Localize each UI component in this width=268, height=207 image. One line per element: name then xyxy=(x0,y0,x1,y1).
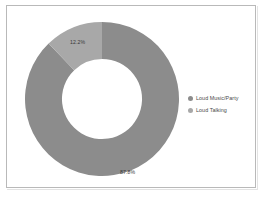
legend-item-loud-music-party[interactable]: Loud Music/Party xyxy=(188,93,266,103)
chart-page: 12.2% 87.8% Loud Music/Party Loud Talkin… xyxy=(0,0,268,207)
slice-label-loud-music-party: 87.8% xyxy=(120,169,135,175)
chart-frame: 12.2% 87.8% Loud Music/Party Loud Talkin… xyxy=(6,5,256,188)
slice-label-loud-talking: 12.2% xyxy=(70,39,85,45)
legend-marker-circle-icon xyxy=(188,108,193,113)
legend-label-loud-talking: Loud Talking xyxy=(196,107,227,113)
chart-legend: Loud Music/Party Loud Talking xyxy=(188,93,266,117)
legend-marker-circle-icon xyxy=(188,96,193,101)
pie-slice-loud-music-party[interactable] xyxy=(25,22,179,176)
legend-item-loud-talking[interactable]: Loud Talking xyxy=(188,105,266,115)
legend-label-loud-music-party: Loud Music/Party xyxy=(196,95,238,101)
plot-area: 12.2% 87.8% Loud Music/Party Loud Talkin… xyxy=(7,6,257,189)
